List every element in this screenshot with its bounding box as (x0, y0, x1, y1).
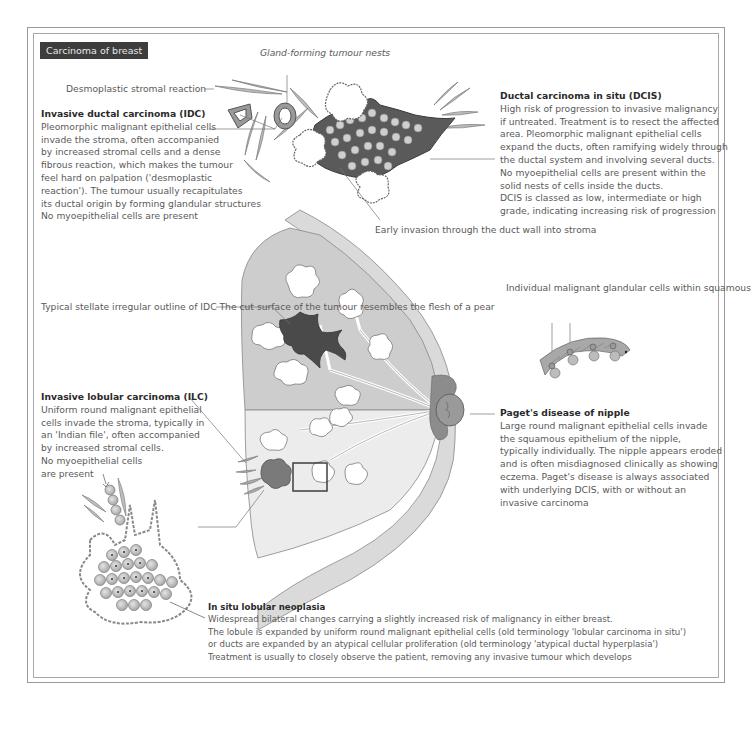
section-dcis: Ductal carcinoma in situ (DCIS) High ris… (500, 90, 728, 218)
section-ilc: Invasive lobular carcinoma (ILC) Uniform… (41, 391, 208, 481)
label-early-invasion: Early invasion through the duct wall int… (375, 224, 596, 237)
label-paget-cells: Individual malignant glandular cells wit… (506, 282, 751, 295)
section-paget: Paget's disease of nipple Large round ma… (500, 407, 722, 509)
label-stellate-outline: Typical stellate irregular outline of ID… (41, 301, 495, 314)
dcis-duct-mass (293, 83, 455, 203)
section-idc: Invasive ductal carcinoma (IDC) Pleomorp… (41, 108, 261, 223)
lobular-neoplasia-inset (80, 474, 205, 624)
lobular-neoplasia-heading: In situ lobular neoplasia (208, 601, 686, 613)
paget-epithelium-inset (540, 338, 630, 378)
label-gland-forming: Gland-forming tumour nests (260, 47, 390, 59)
label-desmoplastic: Desmoplastic stromal reaction (66, 83, 206, 96)
dcis-heading: Ductal carcinoma in situ (DCIS) (500, 90, 728, 103)
paget-heading: Paget's disease of nipple (500, 407, 722, 420)
ilc-heading: Invasive lobular carcinoma (ILC) (41, 391, 208, 404)
section-lobular-neoplasia: In situ lobular neoplasia Widespread bil… (208, 601, 686, 663)
breast-cross-section (236, 210, 464, 630)
idc-heading: Invasive ductal carcinoma (IDC) (41, 108, 261, 121)
nipple (436, 394, 464, 426)
